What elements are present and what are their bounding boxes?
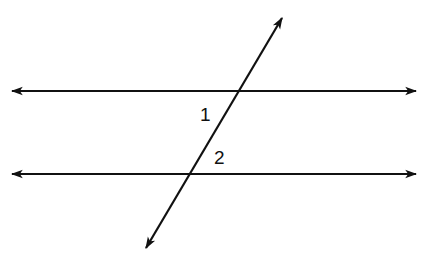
parallel-lines-transversal-diagram: 1 2 [0, 0, 430, 258]
angle-label-1: 1 [200, 104, 211, 125]
angle-label-2: 2 [214, 147, 225, 168]
transversal-line [146, 18, 282, 248]
